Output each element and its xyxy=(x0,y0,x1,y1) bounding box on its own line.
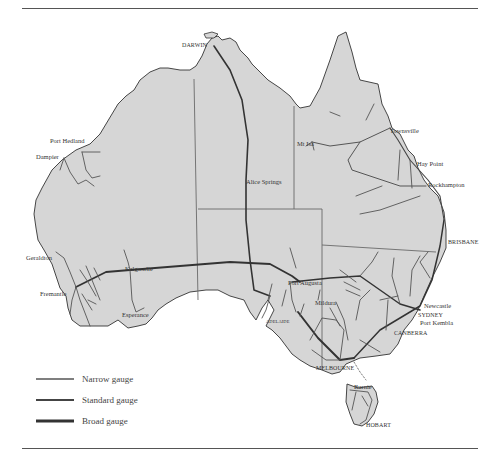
label-hay-point: Hay Point xyxy=(417,160,443,167)
label-brisbane: BRISBANE xyxy=(448,239,479,245)
narrow-gauge-line-icon xyxy=(36,376,74,382)
label-mt-isa: Mt Isa xyxy=(297,140,314,147)
label-dampier: Dampier xyxy=(36,153,60,160)
label-port-kembla: Port Kembla xyxy=(420,319,453,326)
label-canberra: CANBERRA xyxy=(394,330,428,336)
label-burnie: Burnie xyxy=(354,383,372,390)
label-mildura: Mildura xyxy=(315,299,336,306)
legend-label: Standard gauge xyxy=(82,395,138,405)
label-esperance: Esperance xyxy=(122,311,149,318)
mainland-landmass xyxy=(34,32,446,374)
label-port-hedland: Port Hedland xyxy=(50,137,85,144)
label-port-augusta: Port Augusta xyxy=(288,279,322,286)
legend: Narrow gauge Standard gauge Broad gauge xyxy=(36,368,138,431)
standard-gauge-line-icon xyxy=(36,397,74,403)
label-townsville: Townsville xyxy=(390,127,419,134)
label-sydney: SYDNEY xyxy=(418,312,444,318)
label-kalgoorlie: Kalgoorlie xyxy=(125,265,153,272)
label-adelaide: ADELAIDE xyxy=(266,319,290,324)
label-geraldton: Geraldton xyxy=(26,254,53,261)
legend-label: Narrow gauge xyxy=(82,374,133,384)
label-hobart: HOBART xyxy=(366,422,391,428)
label-fremantle: Fremantle xyxy=(40,290,66,297)
broad-gauge-line-icon xyxy=(36,418,74,424)
label-newcastle: Newcastle xyxy=(424,302,451,309)
label-melbourne: MELBOURNE xyxy=(316,365,354,371)
legend-item-standard: Standard gauge xyxy=(36,389,138,410)
legend-label: Broad gauge xyxy=(82,416,128,426)
label-rockhampton: Rockhampton xyxy=(428,181,465,188)
label-darwin: DARWIN xyxy=(182,42,207,48)
legend-item-narrow: Narrow gauge xyxy=(36,368,138,389)
bottom-rule xyxy=(22,448,478,449)
legend-item-broad: Broad gauge xyxy=(36,410,138,431)
label-alice-springs: Alice Springs xyxy=(246,178,282,185)
